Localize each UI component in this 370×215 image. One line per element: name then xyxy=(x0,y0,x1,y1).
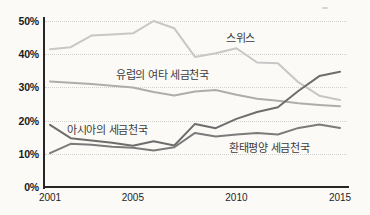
line-chart-canvas xyxy=(0,0,370,215)
series-label-pacific-rim-havens: 환태평양 세금천국 xyxy=(229,139,309,155)
series-line-1 xyxy=(50,81,340,106)
x-axis-line xyxy=(43,186,349,188)
y-tick-label-20%: 20% xyxy=(4,115,39,127)
x-tick-label-2005: 2005 xyxy=(116,192,150,203)
y-axis-line xyxy=(43,17,45,189)
series-line-0 xyxy=(50,21,340,100)
series-label-asian-havens: 아시아의 세금천국 xyxy=(67,121,147,137)
y-tick-label-30%: 30% xyxy=(4,81,39,93)
x-tick-label-2015: 2015 xyxy=(323,192,357,203)
x-tick-label-2010: 2010 xyxy=(219,192,253,203)
y-tick-label-50%: 50% xyxy=(4,15,39,27)
x-tick-label-2001: 2001 xyxy=(33,192,67,203)
scan-speck xyxy=(322,7,328,9)
series-label-switzerland: 스위스 xyxy=(226,29,255,45)
y-tick-label-40%: 40% xyxy=(4,48,39,60)
series-label-other-european-havens: 유럽의 여타 세금천국 xyxy=(116,66,209,82)
y-tick-label-10%: 10% xyxy=(4,148,39,160)
line-chart-figure: 0%10%20%30%40%50% 2001200520102015 스위스 유… xyxy=(0,0,370,215)
